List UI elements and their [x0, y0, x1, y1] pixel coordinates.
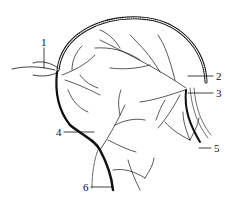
label-5: 5	[214, 142, 220, 154]
label-2: 2	[216, 70, 222, 82]
outer-membrane	[58, 18, 206, 82]
label-6: 6	[83, 181, 89, 193]
main-vessel	[70, 125, 113, 190]
vessel-branches	[62, 30, 199, 190]
label-4: 4	[56, 126, 62, 138]
label-3: 3	[216, 87, 222, 99]
left-wall	[56, 72, 70, 125]
label-1: 1	[41, 36, 47, 48]
nerve-bundle	[12, 62, 58, 76]
vascular-diagram: 1 2 3 4 5 6	[0, 0, 236, 208]
